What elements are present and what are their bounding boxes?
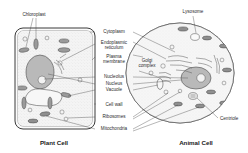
caption-plant-cell: Plant Cell [40, 139, 68, 146]
animal-centriole [189, 93, 198, 100]
label-ribosomes: Ribosomes [103, 114, 127, 119]
animal-mitochondria [222, 68, 231, 72]
animal-mitochondria [220, 101, 229, 105]
label-nucleolus: Nucleolus [104, 74, 125, 79]
label-cytoplasm: Cytoplasm [103, 29, 125, 34]
label-mitochondria: Mitochondria [101, 126, 128, 131]
animal-mitochondria [206, 90, 215, 94]
label-chloroplast: Chloroplast [22, 12, 46, 17]
cell-diagram: Chloroplast Lysosome Cytoplasm Endoplasm… [0, 0, 248, 153]
label-lysosome: Lysosome [183, 9, 204, 14]
label-centriole: Centriole [220, 116, 239, 121]
plant-vacuole [25, 89, 62, 106]
label-nucleus: Nucleus [106, 81, 123, 86]
label-plasma-membrane-line2: membrane [103, 59, 125, 64]
label-cell-wall: Cell wall [105, 102, 122, 107]
label-endoplasmic-reticulum-line2: reticulum [105, 45, 124, 50]
plant-nucleolus [38, 76, 46, 84]
animal-mitochondria [178, 27, 188, 31]
plant-mitochondria [28, 119, 38, 123]
cell-diagram-canvas: Chloroplast Lysosome Cytoplasm Endoplasm… [0, 0, 248, 153]
animal-cytoplasm [126, 23, 234, 123]
animal-mitochondria [202, 36, 211, 40]
caption-animal-cell: Animal Cell [179, 139, 213, 146]
plant-chloroplast [34, 39, 38, 50]
plant-chloroplast [48, 97, 52, 109]
animal-nucleolus [197, 74, 205, 82]
plant-chloroplast [58, 48, 70, 53]
label-vacuole: Vacuole [106, 87, 123, 92]
plant-chloroplast [17, 86, 27, 90]
animal-lysosome [191, 34, 200, 41]
plant-chloroplast [22, 97, 26, 109]
animal-cell-group [126, 23, 234, 123]
animal-vesicle [157, 79, 163, 90]
plant-chloroplast [59, 39, 69, 43]
animal-mitochondria [195, 104, 204, 108]
animal-mitochondria [174, 102, 183, 106]
label-golgi-complex-line2: complex [138, 63, 156, 68]
animal-mitochondria [219, 44, 228, 48]
plant-nucleus [26, 55, 54, 89]
